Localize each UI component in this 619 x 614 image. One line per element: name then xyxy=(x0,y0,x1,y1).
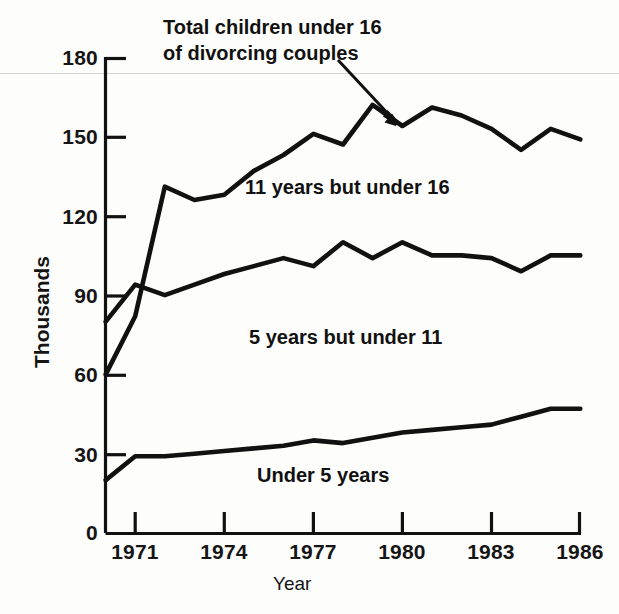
x-tick-label-1974: 1974 xyxy=(178,540,270,564)
x-axis-title: Year xyxy=(273,573,311,595)
y-tick-label-120: 120 xyxy=(26,205,98,229)
y-tick-label-150: 150 xyxy=(26,125,98,149)
y-axis-title: Thousands xyxy=(30,232,54,392)
x-tick-label-1977: 1977 xyxy=(267,540,359,564)
series-label-11-to-16: 11 years but under 16 xyxy=(245,176,450,199)
series-line-middle xyxy=(106,242,581,321)
axis-lines xyxy=(106,57,582,534)
x-axis-ticks xyxy=(135,512,491,533)
y-axis-ticks xyxy=(106,137,127,454)
chart-annotation-total-children: Total children under 16 of divorcing cou… xyxy=(163,14,382,66)
y-tick-label-30: 30 xyxy=(26,443,98,467)
x-tick-label-1980: 1980 xyxy=(356,540,448,564)
series-label-5-to-11: 5 years but under 11 xyxy=(249,326,442,349)
x-tick-label-1986: 1986 xyxy=(534,540,619,564)
x-tick-label-1971: 1971 xyxy=(89,540,181,564)
line-chart: 180 150 120 90 60 30 0 1971 1974 1977 19… xyxy=(0,0,619,614)
x-tick-label-1983: 1983 xyxy=(445,540,537,564)
y-tick-label-180: 180 xyxy=(26,46,98,70)
y-tick-label-0: 0 xyxy=(26,521,98,545)
series-label-under-5: Under 5 years xyxy=(257,464,389,487)
annotation-arrow xyxy=(338,60,398,126)
